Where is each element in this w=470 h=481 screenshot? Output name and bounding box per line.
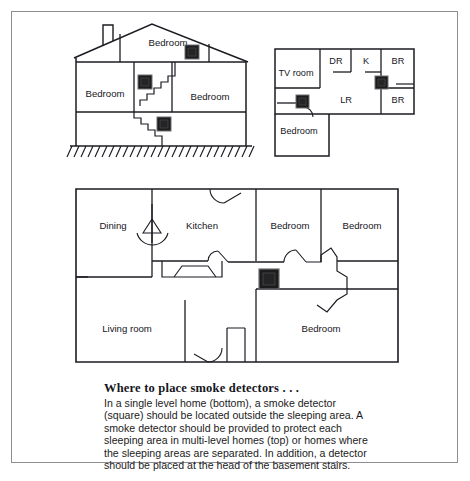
cross-label-attic-bedroom: Bedroom <box>149 37 188 48</box>
plan-label-bedroom-top-right: Bedroom <box>343 220 382 231</box>
plan-label-bedroom-top-left: Bedroom <box>271 220 310 231</box>
single-level-floorplan-group: Dining Kitchen Bedroom Bedroom Living ro… <box>76 189 398 362</box>
detector-attic <box>185 45 199 59</box>
door-swing-bottom <box>208 348 222 362</box>
plan-label-dining: Dining <box>99 220 126 231</box>
caption-title: Where to place smoke detectors . . . <box>104 381 404 395</box>
door-swing-kitchen-hall <box>208 251 218 261</box>
upper-label-bedroom: Bedroom <box>280 126 318 136</box>
upper-label-dr: DR <box>329 56 343 66</box>
door-swing-bedroom-left <box>284 250 296 262</box>
cross-section-group: Bedroom Bedroom Bedroom <box>67 24 254 157</box>
upper-label-br-top: BR <box>392 56 405 66</box>
door-leaf-kitchen-hall <box>218 251 228 262</box>
upper-label-k: K <box>363 56 370 66</box>
upper-label-tv-room: TV room <box>278 68 314 78</box>
plan-label-living-room: Living room <box>102 323 152 334</box>
detector-upper-hall <box>138 75 152 89</box>
plan-label-kitchen: Kitchen <box>186 220 218 231</box>
door-leaf-bottom <box>194 354 208 362</box>
figure-root: Bedroom Bedroom Bedroom <box>0 0 470 481</box>
door-leaf-top <box>224 193 241 203</box>
plan-outline <box>76 189 398 362</box>
upper-label-br-bottom: BR <box>392 95 405 105</box>
detector-basement-stairs <box>157 117 171 131</box>
ground-hatching <box>67 146 254 157</box>
detector-hall-upper-right <box>375 76 388 89</box>
upper-label-lr: LR <box>340 95 352 105</box>
door-leaf-bedroom-left <box>296 250 306 262</box>
cross-label-right-bedroom: Bedroom <box>191 91 230 102</box>
closet-box <box>227 328 245 362</box>
upper-floorplan-group: TV room DR K BR LR BR Bedroom <box>275 49 414 156</box>
detector-central-hall <box>259 269 279 289</box>
caption-block: Where to place smoke detectors . . . In … <box>104 381 404 471</box>
caption-body: In a single level home (bottom), a smoke… <box>104 397 372 471</box>
detector-bedroom-hall <box>296 95 309 108</box>
stairs-trapezoid <box>174 266 216 277</box>
cross-label-left-bedroom: Bedroom <box>86 88 125 99</box>
hall-jog-outline <box>306 248 347 312</box>
plan-label-bedroom-bottom: Bedroom <box>302 323 341 334</box>
stairs-outline <box>162 261 222 277</box>
door-swing-top <box>210 189 224 203</box>
